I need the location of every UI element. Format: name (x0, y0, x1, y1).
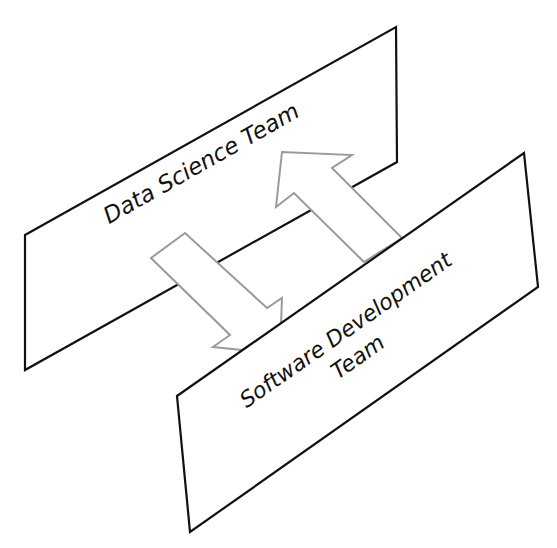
team-interaction-diagram: Data Science Team Software Development T… (0, 0, 557, 548)
